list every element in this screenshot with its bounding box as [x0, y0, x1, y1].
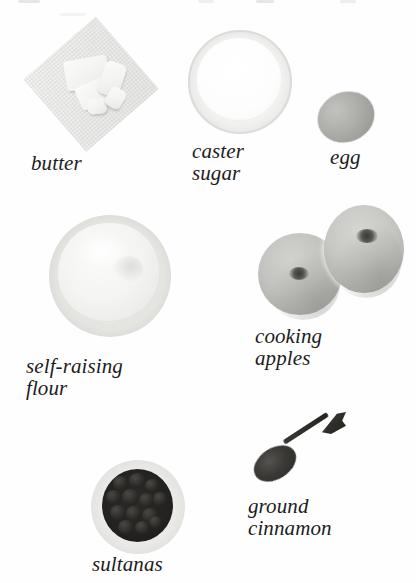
- flour-contents: [58, 223, 159, 321]
- flour-surface-shadow: [113, 256, 143, 281]
- sultana-berry: [110, 505, 126, 520]
- label-ground-cinnamon: ground cinnamon: [248, 495, 332, 539]
- label-sultanas: sultanas: [92, 553, 163, 575]
- spoon-handle: [283, 412, 329, 445]
- sultana-berry: [153, 492, 167, 506]
- label-self-raising-flour: self-raising flour: [26, 355, 123, 399]
- apple-stem-well: [356, 229, 378, 243]
- scan-artifact: [256, 0, 274, 3]
- cooking-apples-image: [258, 205, 404, 317]
- scan-artifact: [340, 0, 356, 3]
- scan-artifact: [60, 13, 86, 16]
- label-egg: egg: [330, 146, 361, 168]
- egg-image: [317, 92, 375, 142]
- sultana-berry: [139, 493, 154, 507]
- caster-sugar-image: [188, 30, 292, 134]
- sugar-bowl-rim: [188, 30, 292, 134]
- sultana-berry: [129, 473, 145, 488]
- sultana-berry: [106, 490, 121, 504]
- ingredients-figure: butter caster sugar egg self-raising flo…: [0, 0, 416, 583]
- sultana-berry: [118, 520, 134, 534]
- label-caster-sugar: caster sugar: [192, 140, 244, 184]
- egg-shape: [310, 83, 383, 151]
- apple-right: [324, 205, 404, 293]
- label-cooking-apples: cooking apples: [255, 325, 322, 369]
- apple-stem-well: [289, 267, 309, 280]
- spoon-bowl: [247, 438, 302, 489]
- self-raising-flour-image: [49, 215, 171, 337]
- sultana-berry: [113, 476, 128, 490]
- scan-artifact: [18, 0, 40, 3]
- sultana-berry: [126, 506, 141, 521]
- sultana-berry: [135, 521, 150, 534]
- sultana-berry: [122, 489, 139, 505]
- label-butter: butter: [31, 152, 82, 174]
- ground-cinnamon-image: [250, 412, 348, 490]
- scan-artifact: [198, 0, 214, 3]
- butter-image: [29, 22, 153, 146]
- sultanas-image: [91, 460, 185, 554]
- sultana-berry: [149, 516, 162, 528]
- sultana-berry: [145, 479, 159, 492]
